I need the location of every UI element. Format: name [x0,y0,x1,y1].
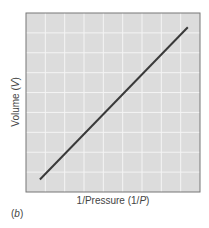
y-axis-label: Volume (V) [10,77,21,126]
chart-canvas [0,0,209,228]
x-axis-label: 1/Pressure (1/P) [26,195,200,206]
panel-label: (b) [11,208,23,219]
plot-area [26,13,200,192]
